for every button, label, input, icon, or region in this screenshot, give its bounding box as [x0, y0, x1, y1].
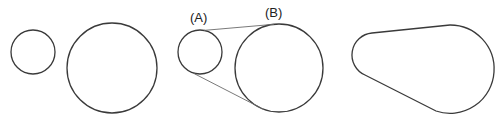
label-b: (B)	[265, 5, 282, 20]
label-a: (A)	[190, 10, 207, 25]
large-pulley-circle	[67, 23, 157, 113]
panel-tangent-construction: (A) (B)	[178, 5, 323, 112]
belt-outline-shape	[352, 25, 494, 113]
pulley-a-circle	[178, 30, 222, 74]
small-pulley-circle	[11, 30, 55, 74]
pulley-b-circle	[235, 24, 323, 112]
panel-separate-circles	[11, 23, 157, 113]
lower-tangent-line	[193, 73, 264, 110]
panel-belt-outline	[352, 25, 494, 113]
pulley-diagram: (A) (B)	[0, 0, 498, 119]
